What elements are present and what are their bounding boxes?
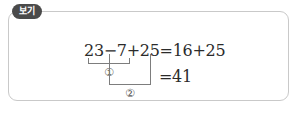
order-bracket-second	[109, 54, 151, 85]
order-marker-second: ②	[118, 87, 142, 100]
equation-line-2: =41	[159, 67, 192, 86]
worksheet-example-screenshot: 23−7+25=16+25 ① ② =41 보기	[0, 0, 298, 113]
equation-area: 23−7+25=16+25 ① ② =41	[17, 23, 298, 113]
example-box: 23−7+25=16+25 ① ② =41	[8, 11, 289, 101]
example-tag-label: 보기	[12, 4, 42, 19]
